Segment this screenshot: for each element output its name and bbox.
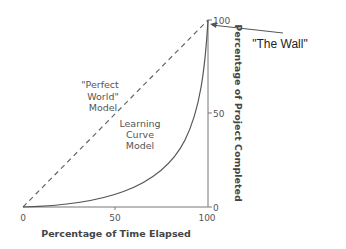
perfect-world-label-2: World" bbox=[87, 91, 119, 102]
perfect-world-label-1: "Perfect bbox=[81, 79, 119, 90]
x-tick-100: 100 bbox=[198, 213, 215, 223]
wall-arrow bbox=[212, 25, 283, 33]
x-tick-0: 0 bbox=[20, 213, 26, 223]
learning-curve-label-2: Curve bbox=[126, 129, 154, 140]
perfect-world-label-3: Model bbox=[89, 102, 118, 113]
y-tick-100: 100 bbox=[213, 16, 230, 26]
learning-curve-label-1: Learning bbox=[119, 118, 160, 129]
y-tick-50: 50 bbox=[213, 109, 225, 119]
learning-curve-label-3: Model bbox=[126, 140, 155, 151]
y-axis-title: Percentage of Project Completed bbox=[233, 24, 244, 201]
perfect-world-line bbox=[23, 20, 208, 207]
x-axis-title: Percentage of Time Elapsed bbox=[41, 228, 191, 239]
x-tick-50: 50 bbox=[109, 213, 121, 223]
y-tick-0: 0 bbox=[213, 203, 219, 213]
the-wall-label: "The Wall" bbox=[252, 37, 307, 51]
learning-curve-diagram: 0 50 100 0 50 100 Percentage of Time Ela… bbox=[0, 0, 346, 249]
